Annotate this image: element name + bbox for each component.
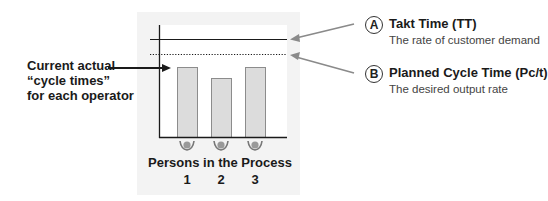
callout-title: Planned Cycle Time (Pc/t) xyxy=(389,65,548,81)
x-axis-title: Persons in the Process xyxy=(140,155,300,170)
callout-title: Takt Time (TT) xyxy=(389,16,477,32)
callout-arrow-a-icon xyxy=(290,24,354,42)
person-icon xyxy=(214,141,228,150)
annotation-line: “cycle times” xyxy=(27,73,134,88)
bar-person-3 xyxy=(246,68,266,138)
bar-person-1 xyxy=(178,68,198,138)
person-icon xyxy=(180,141,194,150)
cycle-times-annotation: Current actual “cycle times” for each op… xyxy=(27,58,134,103)
bar-person-2 xyxy=(212,79,232,138)
badge-a: A xyxy=(365,16,383,34)
x-tick-label: 3 xyxy=(245,172,265,187)
callout-arrow-b-icon xyxy=(290,52,354,73)
callout-subtitle: The rate of customer demand xyxy=(389,33,540,47)
x-tick-label: 1 xyxy=(177,172,197,187)
annotation-line: for each operator xyxy=(27,88,134,103)
annotation-line: Current actual xyxy=(27,58,134,73)
x-tick-label: 2 xyxy=(211,172,231,187)
badge-b: B xyxy=(365,65,383,83)
person-icon xyxy=(248,141,262,150)
callout-subtitle: The desired output rate xyxy=(389,82,508,96)
bars xyxy=(178,68,266,138)
